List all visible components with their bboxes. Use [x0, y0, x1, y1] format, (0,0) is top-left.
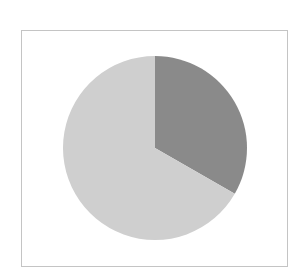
- pie-slices: [63, 56, 247, 240]
- pie-chart: [0, 0, 298, 277]
